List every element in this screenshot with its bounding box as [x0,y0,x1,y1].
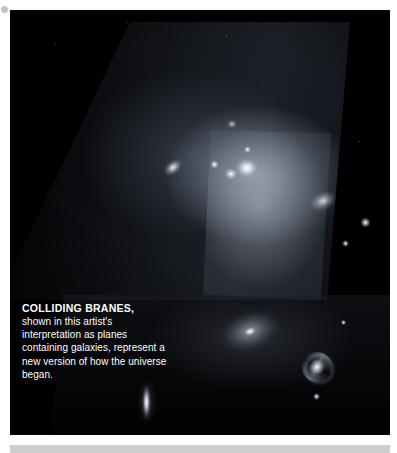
magazine-page: COLLIDING BRANES, shown in this artist's… [0,0,397,453]
star-above-face-on-galaxy [340,319,347,326]
caption-title: COLLIDING BRANES, [22,302,172,314]
page-footer-band [10,445,390,453]
upper-brane-bright-quadrant [203,130,331,300]
caption-body: shown in this artist's interpretation as… [22,315,172,381]
star-knot-upper [243,145,252,154]
figure-caption: COLLIDING BRANES, shown in this artist's… [22,302,172,381]
bright-star-right-lower [341,239,350,248]
bright-quadrant-starfield-overlay [203,130,331,300]
bright-star-right [359,216,372,229]
star-knot-left [209,159,220,170]
star-below-face-on-galaxy [312,392,321,401]
edge-on-spindle-galaxy [141,381,152,423]
faint-galaxy-upper [225,118,239,130]
page-registration-mark [1,6,8,13]
astronomy-illustration-plate: COLLIDING BRANES, shown in this artist's… [10,10,390,435]
bright-core-cluster [232,155,262,181]
face-on-spiral-galaxy [302,352,332,382]
